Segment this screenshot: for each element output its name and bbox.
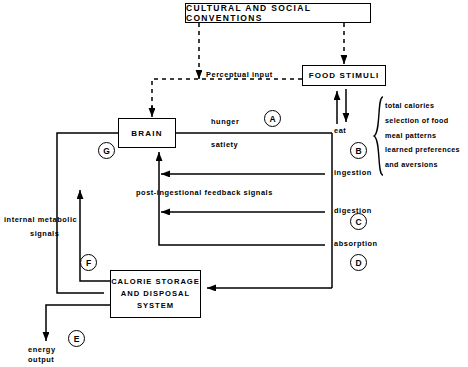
factor-list-item: learned preferences [385, 143, 460, 158]
marker-d: D [350, 254, 367, 271]
connector-layer [0, 0, 468, 367]
line-absorption-feedback [159, 152, 325, 245]
factor-list-item: and aversions [385, 158, 460, 173]
factor-list-item: meal patterns [385, 129, 460, 144]
node-calorie-storage-disposal-system: CALORIE STORAGE AND DISPOSAL SYSTEM [110, 270, 201, 318]
label-post-ingestional-feedback-signals: post-ingestional feedback signals [136, 188, 273, 197]
dashed-food-to-brain [152, 79, 302, 110]
marker-e: E [68, 330, 85, 347]
marker-b: B [350, 142, 367, 159]
factor-list-brace [372, 96, 386, 176]
marker-a: A [264, 110, 281, 127]
label-internal-metabolic-signals-line-1: internal metabolic [4, 215, 77, 224]
label-perceptual-input: Perceptual input [206, 70, 273, 79]
node-calorie-line-3: SYSTEM [137, 300, 174, 312]
label-energy-output-line-2: output [28, 355, 54, 364]
factor-list: total calories selection of food meal pa… [385, 99, 460, 173]
label-absorption: absorption [334, 239, 378, 248]
label-energy-output-line-1: energy [28, 345, 56, 354]
diagram-canvas: CULTURAL AND SOCIAL CONVENTIONS FOOD STI… [0, 0, 468, 367]
node-cultural-social-conventions: CULTURAL AND SOCIAL CONVENTIONS [185, 3, 371, 23]
node-calorie-line-1: CALORIE STORAGE [111, 276, 200, 288]
node-brain: BRAIN [118, 118, 176, 148]
marker-g: G [98, 142, 115, 159]
factor-list-item: selection of food [385, 114, 460, 129]
label-eat: eat [334, 126, 346, 135]
factor-list-item: total calories [385, 99, 460, 114]
node-food-stimuli-label: FOOD STIMULI [309, 71, 380, 80]
marker-c: C [350, 213, 367, 230]
node-brain-label: BRAIN [131, 129, 162, 138]
label-hunger: hunger [211, 117, 239, 126]
node-cultural-label: CULTURAL AND SOCIAL CONVENTIONS [186, 3, 370, 23]
label-ingestion: ingestion [334, 168, 372, 177]
node-calorie-line-2: AND DISPOSAL [121, 288, 190, 300]
node-food-stimuli: FOOD STIMULI [302, 65, 386, 86]
marker-f: F [80, 254, 97, 271]
label-satiety: satiety [211, 140, 238, 149]
label-internal-metabolic-signals-line-2: signals [30, 229, 59, 238]
